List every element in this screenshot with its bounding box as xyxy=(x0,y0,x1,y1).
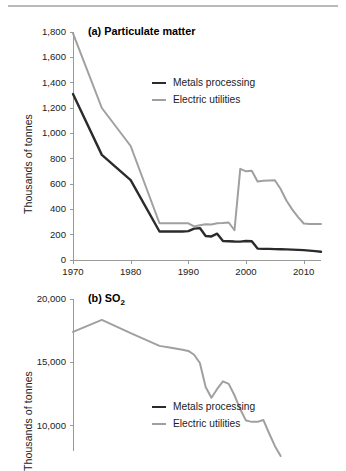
legend-color-swatch xyxy=(152,82,166,84)
y-axis-tick-label: 1,600 xyxy=(22,51,66,62)
chart-panel-so2: Thousands of tonnes (b) SO2 10,00015,000… xyxy=(0,285,346,451)
y-axis-tick-label: 1,800 xyxy=(22,26,66,37)
y-axis-tick-label: 800 xyxy=(22,153,66,164)
y-axis-tick-label: 10,000 xyxy=(22,420,66,431)
y-axis-tick-label: 1,400 xyxy=(22,77,66,88)
legend-label: Metals processing xyxy=(173,77,255,88)
x-axis-tick-label: 1980 xyxy=(109,266,153,277)
x-axis-tick xyxy=(188,261,189,264)
legend-color-swatch xyxy=(152,406,166,408)
y-axis-tick-label: 0 xyxy=(22,254,66,265)
legend-label: Metals processing xyxy=(173,401,255,412)
chart-a-series-group xyxy=(73,32,321,260)
x-axis-tick xyxy=(131,261,132,264)
legend-label: Electric utilities xyxy=(173,94,240,105)
x-axis-tick xyxy=(73,261,74,264)
y-axis-tick-label: 600 xyxy=(22,178,66,189)
chart-panel-particulate-matter: Thousands of tonnes (a) Particulate matt… xyxy=(0,18,346,268)
x-axis-tick-label: 1990 xyxy=(166,266,210,277)
chart-b-legend: Metals processingElectric utilities xyxy=(152,398,255,432)
x-axis-tick xyxy=(246,261,247,264)
y-axis-tick-label: 1,200 xyxy=(22,102,66,113)
x-axis-tick-label: 1970 xyxy=(51,266,95,277)
chart-a-x-axis-line xyxy=(73,260,321,261)
y-axis-tick-label: 400 xyxy=(22,203,66,214)
top-divider-rule xyxy=(8,5,338,7)
y-axis-tick-label: 200 xyxy=(22,229,66,240)
series-line-electric-utilities xyxy=(73,33,321,230)
chart-a-plot-area: 02004006008001,0001,2001,4001,6001,80019… xyxy=(73,32,321,260)
legend-label: Electric utilities xyxy=(173,418,240,429)
x-axis-tick-label: 2000 xyxy=(224,266,268,277)
legend-item-electric-utilities[interactable]: Electric utilities xyxy=(152,91,255,108)
y-axis-tick-label: 1,000 xyxy=(22,127,66,138)
y-axis-tick-label: 20,000 xyxy=(22,293,66,304)
chart-a-legend: Metals processingElectric utilities xyxy=(152,74,255,108)
legend-color-swatch xyxy=(152,423,166,425)
x-axis-tick xyxy=(304,261,305,264)
legend-item-metals-processing[interactable]: Metals processing xyxy=(152,74,255,91)
series-line-electric-utilities xyxy=(73,320,281,456)
x-axis-tick-label: 2010 xyxy=(282,266,326,277)
y-axis-tick-label: 15,000 xyxy=(22,356,66,367)
legend-item-electric-utilities[interactable]: Electric utilities xyxy=(152,415,255,432)
legend-item-metals-processing[interactable]: Metals processing xyxy=(152,398,255,415)
legend-color-swatch xyxy=(152,99,166,101)
